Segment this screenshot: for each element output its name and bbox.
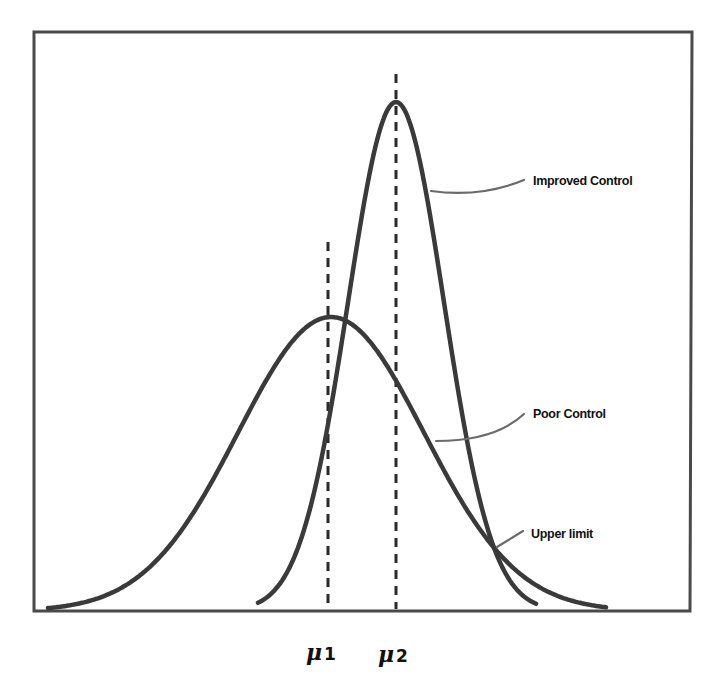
control-distribution-diagram: Improved Control Poor Control Upper limi…: [0, 0, 716, 690]
upper-limit-leader: [497, 531, 523, 547]
upper-limit-label: Upper limit: [531, 527, 594, 541]
svg-text:μ1: μ1: [306, 639, 336, 665]
svg-text:μ2: μ2: [378, 641, 408, 667]
poor-control-label: Poor Control: [533, 407, 606, 421]
improved-control-label: Improved Control: [533, 174, 632, 188]
poor-control-leader: [436, 414, 524, 441]
improved-control-leader: [431, 180, 524, 193]
mu1-label: μ1: [306, 639, 336, 665]
mu2-label: μ2: [378, 641, 408, 667]
plot-frame: [34, 32, 692, 611]
